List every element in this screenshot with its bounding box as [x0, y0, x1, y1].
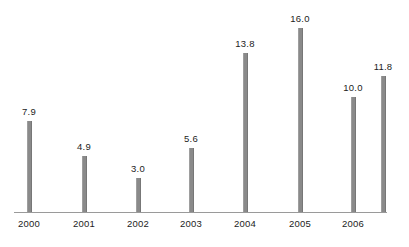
bar [27, 121, 32, 212]
x-axis-tick-label: 2004 [234, 219, 256, 229]
plot-area: 7.920004.920013.020025.6200313.8200416.0… [0, 0, 409, 247]
x-axis-tick-label: 2002 [127, 219, 149, 229]
bar [298, 28, 303, 212]
bar [243, 53, 248, 212]
bar-value-label: 4.9 [77, 142, 91, 152]
x-axis-tick-label: 2001 [73, 219, 95, 229]
bar-value-label: 10.0 [343, 83, 362, 93]
bar [351, 97, 356, 212]
bar [189, 148, 194, 212]
bar [82, 156, 87, 212]
bar-value-label: 13.8 [235, 39, 254, 49]
x-axis-line [14, 212, 387, 213]
bar-chart: 7.920004.920013.020025.6200313.8200416.0… [0, 0, 409, 247]
bar-value-label: 5.6 [184, 134, 198, 144]
bar-value-label: 7.9 [22, 107, 36, 117]
x-axis-tick-label: 2006 [342, 219, 364, 229]
bar-value-label: 11.8 [374, 62, 393, 72]
x-axis-tick-label: 2000 [18, 219, 40, 229]
bar [381, 76, 386, 212]
bar-value-label: 3.0 [131, 164, 145, 174]
x-axis-tick-label: 2003 [180, 219, 202, 229]
bar [136, 178, 141, 213]
bar-value-label: 16.0 [290, 14, 309, 24]
x-axis-tick-label: 2005 [289, 219, 311, 229]
